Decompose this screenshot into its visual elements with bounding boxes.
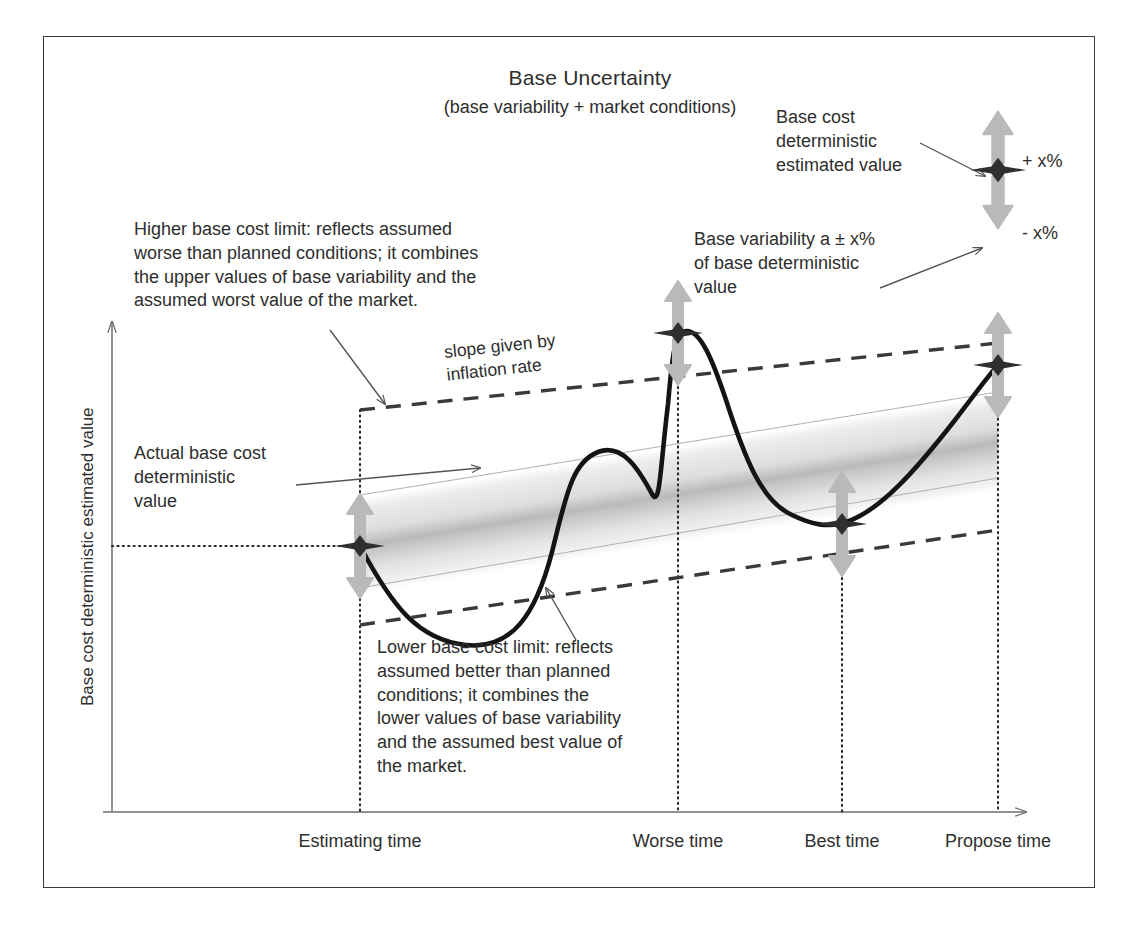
figure-subtitle: (base variability + market conditions) [392,96,788,120]
figure-canvas: Base Uncertainty (base variability + mar… [0,0,1135,932]
tick-label-propose-time: Propose time [888,830,1108,854]
y-axis-label: Base cost deterministic estimated value [77,407,99,706]
annotation-actual-base-cost: Actual base cost deterministic value [134,442,344,513]
legend-plus-label: + x% [1022,150,1063,174]
legend-variability-label: Base variability a ± x% of base determin… [694,228,934,299]
annotation-higher-base-cost-limit: Higher base cost limit: reflects assumed… [134,218,584,313]
legend-minus-label: - x% [1022,222,1058,246]
legend-marker-label: Base cost deterministic estimated value [776,106,936,177]
figure-title: Base Uncertainty [430,64,750,92]
annotation-lower-base-cost-limit: Lower base cost limit: reflects assumed … [377,636,687,779]
tick-label-estimating-time: Estimating time [250,830,470,854]
